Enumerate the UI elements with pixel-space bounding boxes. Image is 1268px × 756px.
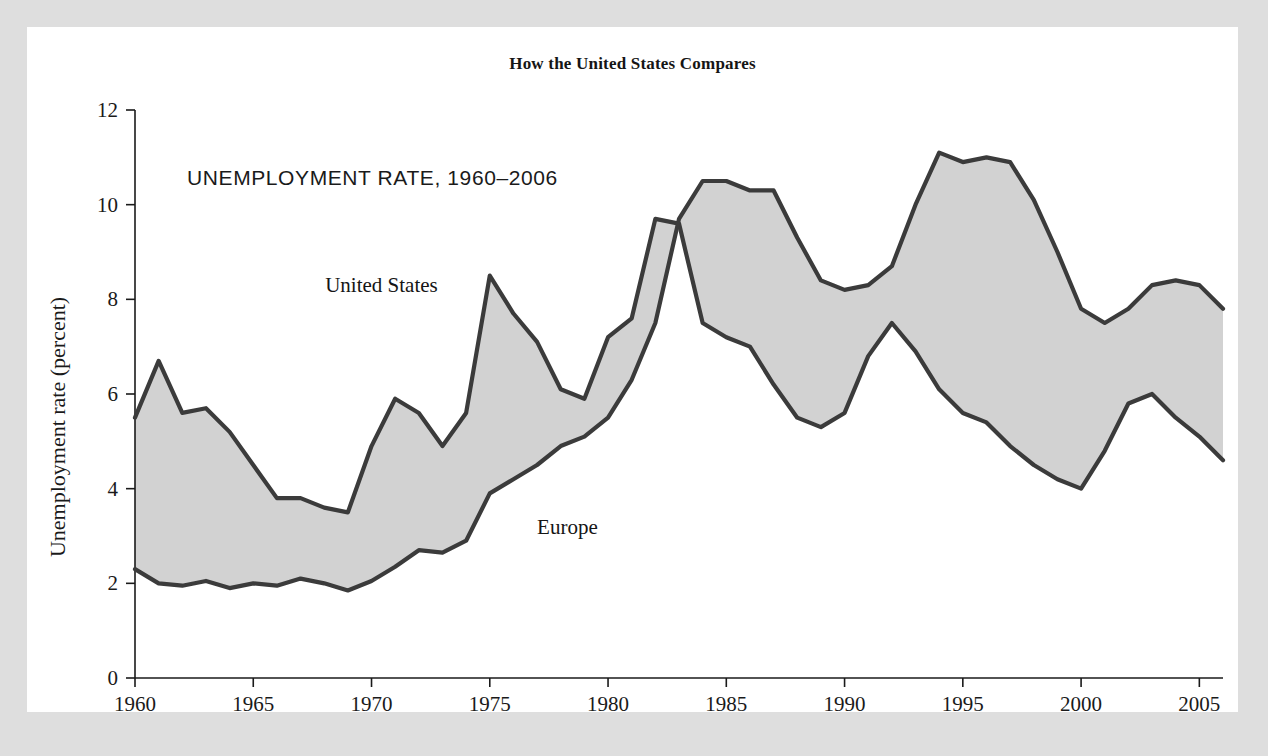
y-axis-tick-label: 2 bbox=[108, 571, 119, 595]
unemployment-rate-chart: 024681012 196019651970197519801985199019… bbox=[27, 27, 1238, 712]
y-axis-tick-label: 8 bbox=[108, 287, 119, 311]
y-axis-tick-label: 0 bbox=[108, 666, 119, 690]
x-axis-tick-label: 1970 bbox=[351, 692, 393, 712]
x-axis-tick-label: 1960 bbox=[114, 692, 156, 712]
y-axis-tick-label: 10 bbox=[97, 193, 118, 217]
x-axis-tick-label: 1995 bbox=[942, 692, 984, 712]
chart-subtitle: UNEMPLOYMENT RATE, 1960–2006 bbox=[187, 166, 558, 189]
y-axis-title: Unemployment rate (percent) bbox=[45, 297, 70, 557]
x-axis-tick-label: 1990 bbox=[824, 692, 866, 712]
figure-frame: How the United States Compares 024681012… bbox=[0, 0, 1268, 756]
x-axis-tick-label: 2005 bbox=[1178, 692, 1220, 712]
figure-panel: How the United States Compares 024681012… bbox=[27, 27, 1238, 712]
y-axis-tick-label: 6 bbox=[108, 382, 119, 406]
y-axis-tick-label: 4 bbox=[108, 477, 119, 501]
series-annotation-united-states: United States bbox=[325, 273, 438, 297]
x-axis-tick-label: 1975 bbox=[469, 692, 511, 712]
x-axis-tick-label: 1980 bbox=[587, 692, 629, 712]
x-axis-tick-label: 2000 bbox=[1060, 692, 1102, 712]
y-axis-tick-label: 12 bbox=[97, 98, 118, 122]
x-axis-tick-label: 1965 bbox=[232, 692, 274, 712]
x-axis-tick-label: 1985 bbox=[705, 692, 747, 712]
series-annotation-europe: Europe bbox=[537, 515, 598, 539]
x-axis-ticks: 1960196519701975198019851990199520002005 bbox=[114, 678, 1220, 712]
y-axis-ticks: 024681012 bbox=[97, 98, 135, 690]
